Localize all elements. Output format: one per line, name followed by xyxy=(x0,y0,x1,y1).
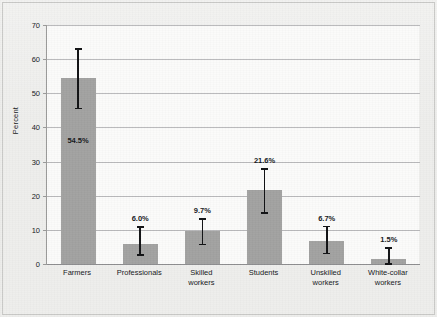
error-cap-1-lower xyxy=(137,254,144,256)
y-tickmark-0 xyxy=(43,264,47,265)
gridline-30 xyxy=(47,162,420,163)
y-tick-label: 10 xyxy=(20,226,40,235)
y-tick-label: 50 xyxy=(20,89,40,98)
x-label-line: White-collar xyxy=(352,268,424,278)
gridline-10 xyxy=(47,230,420,231)
y-tick-label: 70 xyxy=(20,21,40,30)
error-cap-1-upper xyxy=(137,226,144,228)
gridline-70 xyxy=(47,25,420,26)
error-cap-4-upper xyxy=(323,226,330,228)
x-label-line: workers xyxy=(352,278,424,288)
y-tickmark-30 xyxy=(43,162,47,163)
y-tickmark-40 xyxy=(43,127,47,128)
y-tick-label: 20 xyxy=(20,192,40,201)
y-tick-label: 0 xyxy=(20,260,40,269)
plot-area: 54.5%6.0%9.7%21.6%6.7%1.5% xyxy=(46,25,419,264)
y-tick-label: 40 xyxy=(20,123,40,132)
bar-value-label: 54.5% xyxy=(48,136,108,145)
error-cap-3-upper xyxy=(261,168,268,170)
gridline-20 xyxy=(47,196,420,197)
error-bar-0 xyxy=(77,48,79,107)
gridline-40 xyxy=(47,127,420,128)
error-cap-2-lower xyxy=(199,244,206,246)
gridline-50 xyxy=(47,93,420,94)
bar-value-label: 1.5% xyxy=(359,235,419,244)
gridline-0 xyxy=(47,264,420,265)
error-bar-2 xyxy=(202,218,204,244)
error-bar-1 xyxy=(139,226,141,254)
y-tick-label: 30 xyxy=(20,158,40,167)
error-bar-5 xyxy=(388,247,390,263)
x-tick-label: White-collarworkers xyxy=(352,268,424,288)
y-tickmark-20 xyxy=(43,196,47,197)
y-tickmark-70 xyxy=(43,25,47,26)
error-cap-0-lower xyxy=(75,108,82,110)
gridline-60 xyxy=(47,59,420,60)
error-cap-5-lower xyxy=(385,263,392,265)
bar-value-label: 9.7% xyxy=(172,206,232,215)
error-cap-3-lower xyxy=(261,212,268,214)
error-cap-0-upper xyxy=(75,48,82,50)
bar-value-label: 6.0% xyxy=(110,214,170,223)
y-tick-label: 60 xyxy=(20,55,40,64)
chart-figure: Percent 54.5%6.0%9.7%21.6%6.7%1.5% 01020… xyxy=(0,0,437,317)
error-cap-2-upper xyxy=(199,218,206,220)
error-cap-5-upper xyxy=(385,247,392,249)
y-tickmark-10 xyxy=(43,230,47,231)
y-tickmark-50 xyxy=(43,93,47,94)
y-axis-title: Percent xyxy=(11,86,20,156)
y-tickmark-60 xyxy=(43,59,47,60)
bar-value-label: 21.6% xyxy=(235,156,295,165)
error-bar-4 xyxy=(326,226,328,253)
x-label-line: workers xyxy=(165,278,237,288)
bar-value-label: 6.7% xyxy=(297,214,357,223)
error-bar-3 xyxy=(264,168,266,212)
error-cap-4-lower xyxy=(323,253,330,255)
